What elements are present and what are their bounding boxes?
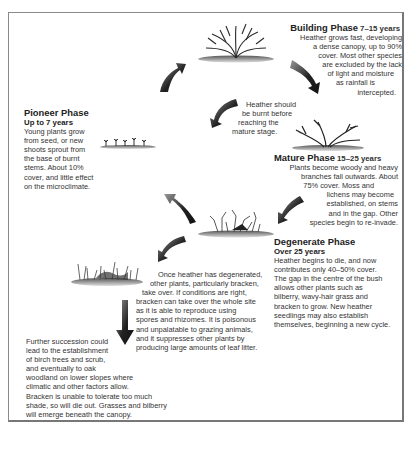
degenerate-phase-block: Degenerate Phase Over 25 years Heather b… [274, 236, 410, 329]
bracken-patch-illustration [71, 262, 143, 286]
arrow-degenerate-to-bracken [158, 236, 186, 262]
pioneer-phase-years: Up to 7 years [24, 118, 124, 127]
arrow-degenerate-to-pioneer [164, 194, 196, 224]
mature-phase-years: 15–25 years [337, 154, 381, 163]
arrow-pioneer-to-building [160, 63, 186, 92]
mature-phase-title: Mature Phase [274, 152, 335, 163]
mature-phase-block: Mature Phase 15–25 years Plants become w… [274, 152, 410, 227]
succession-note: Further succession could lead to the est… [26, 337, 206, 419]
pioneer-phase-title: Pioneer Phase [24, 107, 124, 118]
arrow-burning-to-pioneer [210, 99, 238, 128]
building-phase-years: 7–15 years [360, 24, 400, 33]
burning-note: Heather should be burnt before reaching … [242, 100, 322, 136]
building-phase-block: Building Phase 7–15 years [262, 22, 400, 33]
building-phase-title: Building Phase [290, 22, 358, 33]
degenerate-phase-years: Over 25 years [274, 247, 410, 256]
degenerate-phase-title: Degenerate Phase [274, 236, 410, 247]
building-phase-description: Heather grows fast, developing a dense c… [284, 33, 410, 97]
degenerate-bush-illustration [198, 210, 274, 238]
pioneer-phase-block: Pioneer Phase Up to 7 years Young plants… [24, 107, 124, 191]
